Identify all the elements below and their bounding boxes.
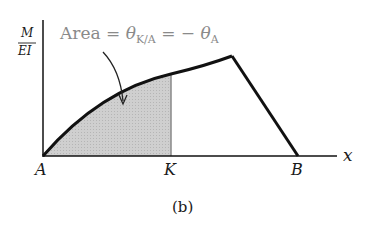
point-label-b: B xyxy=(291,160,303,179)
point-label-a: A xyxy=(35,160,47,179)
point-label-k: K xyxy=(164,160,176,179)
mei-descending-line xyxy=(232,56,298,156)
y-label-numerator: M xyxy=(21,26,33,40)
area-annotation: Area = θK/A = − θA xyxy=(60,23,219,46)
figure-caption: (b) xyxy=(172,198,193,216)
y-label-denominator: EI xyxy=(18,44,32,58)
shaded-area xyxy=(43,74,171,156)
x-axis-label: x xyxy=(343,145,353,165)
